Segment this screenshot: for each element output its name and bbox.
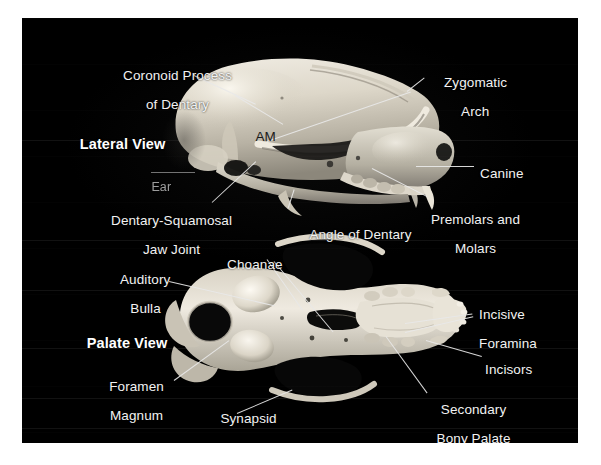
view-label-palate-text: Palate View	[87, 335, 168, 351]
label-synapsid-line2: Opening	[223, 440, 275, 444]
label-auditory-line2: Bulla	[130, 301, 161, 316]
dentary-squamosal-joint	[224, 160, 248, 176]
label-secondary-line2: Bony Palate	[437, 431, 511, 444]
label-foramen-magnum: Foramen Magnum	[75, 365, 175, 438]
label-foramen-line1: Foramen	[109, 379, 164, 394]
label-premolars-line2: Molars	[455, 241, 496, 256]
label-coronoid-process: Coronoid Process of Dentary	[96, 54, 236, 127]
label-incisors: Incisors	[462, 348, 532, 392]
label-canine-text: Canine	[480, 166, 523, 181]
label-synapsid-line1: Synapsid	[220, 411, 276, 426]
label-incisors-text: Incisors	[485, 362, 532, 377]
label-auditory-line1: Auditory	[120, 272, 170, 287]
label-zygomatic-line2: Arch	[461, 104, 489, 119]
label-synapsid-opening: Synapsid Opening	[189, 397, 285, 443]
label-jaw-joint-line2: Jaw Joint	[143, 242, 200, 257]
figure-root: Coronoid Process of Dentary Lateral View…	[0, 0, 601, 465]
rostrum-highlight	[372, 132, 440, 168]
photo-plate: Coronoid Process of Dentary Lateral View…	[22, 18, 578, 443]
label-am: AM	[233, 115, 276, 159]
label-secondary-bony-palate: Secondary Bony Palate	[403, 388, 521, 443]
view-label-lateral-text: Lateral View	[80, 136, 166, 152]
label-am-text: AM	[255, 129, 275, 144]
label-choanae-text: Choanae	[227, 257, 283, 272]
label-incisive-line1: Incisive	[479, 307, 525, 322]
label-premolars-and-molars: Premolars and Molars	[404, 198, 524, 271]
view-label-palate: Palate View	[62, 321, 167, 365]
label-zygomatic-arch: Zygomatic Arch	[410, 61, 518, 134]
label-coronoid-line1: Coronoid Process	[123, 68, 232, 83]
label-ear-text: Ear	[151, 180, 171, 194]
label-auditory-bulla: Auditory Bulla	[86, 258, 182, 331]
label-zygomatic-line1: Zygomatic	[444, 75, 507, 90]
label-coronoid-line2: of Dentary	[146, 97, 209, 112]
label-jaw-joint-line1: Dentary-Squamosal	[111, 213, 232, 228]
label-premolars-line1: Premolars and	[431, 212, 520, 227]
label-angle-of-dentary-text: Angle of Dentary	[309, 227, 411, 242]
label-angle-of-dentary: Angle of Dentary	[287, 213, 412, 257]
view-label-lateral: Lateral View	[55, 122, 165, 166]
nasal-aperture	[436, 143, 452, 161]
label-choanae: Choanae	[204, 243, 283, 287]
label-secondary-line1: Secondary	[441, 402, 506, 417]
label-foramen-line2: Magnum	[110, 408, 163, 423]
label-canine: Canine	[457, 152, 524, 196]
